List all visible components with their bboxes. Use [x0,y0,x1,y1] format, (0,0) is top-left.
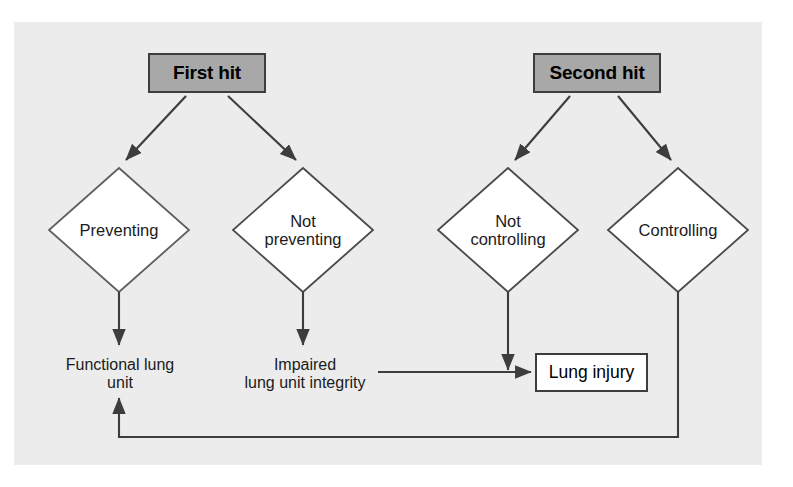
node-lung-injury[interactable]: Lung injury [535,353,648,392]
node-second-hit[interactable]: Second hit [533,53,661,93]
node-second-hit-label: Second hit [549,62,644,84]
node-functional-lung-unit-label: Functional lung unit [66,356,175,392]
node-first-hit[interactable]: First hit [148,53,266,93]
edge-second-hit-to-not-controlling [515,96,570,160]
node-preventing[interactable]: Preventing [49,205,189,255]
node-preventing-label: Preventing [80,221,159,239]
edge-first-hit-to-not-preventing [228,96,296,160]
node-first-hit-label: First hit [173,62,241,84]
node-controlling[interactable]: Controlling [608,205,748,255]
node-lung-injury-label: Lung injury [549,362,635,383]
node-impaired-lung-unit: Impaired lung unit integrity [210,352,400,396]
node-not-preventing[interactable]: Not preventing [233,199,373,261]
edge-first-hit-to-preventing [126,96,186,160]
node-not-preventing-label: Not preventing [264,212,341,249]
node-controlling-label: Controlling [639,221,718,239]
node-not-controlling-label: Not controlling [470,212,545,249]
node-impaired-lung-unit-label: Impaired lung unit integrity [245,356,366,392]
node-not-controlling[interactable]: Not controlling [438,199,578,261]
edge-second-hit-to-controlling [618,96,671,160]
node-functional-lung-unit: Functional lung unit [32,352,208,396]
figure-root: First hit Second hit Preventing Not prev… [0,0,793,487]
